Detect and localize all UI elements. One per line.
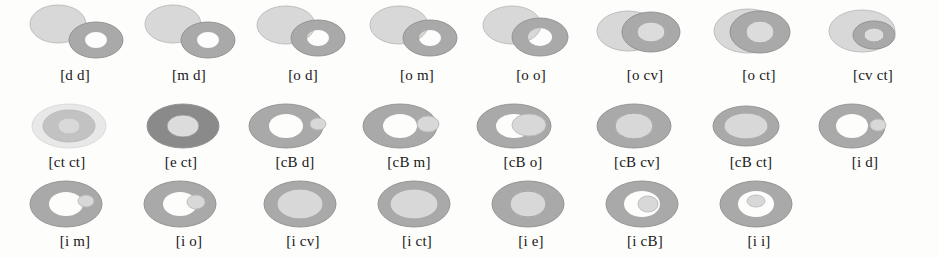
annulus-band xyxy=(818,0,928,66)
annulus-band xyxy=(20,179,130,233)
relation-label: [o o] xyxy=(516,68,546,83)
relation-cell: [o cv] xyxy=(588,0,702,100)
relation-diagram xyxy=(362,179,472,233)
relation-diagram xyxy=(818,0,928,66)
relation-label: [i cB] xyxy=(627,234,663,249)
inner-disc-shape xyxy=(310,118,326,130)
annulus-band xyxy=(476,0,586,66)
annulus-band xyxy=(20,0,130,66)
relation-label: [i d] xyxy=(852,155,878,170)
relation-diagram xyxy=(354,100,464,154)
relation-cell: [cB ct] xyxy=(694,100,808,179)
relation-cell: [ct ct] xyxy=(10,100,124,179)
annulus-band xyxy=(362,0,472,66)
inner-disc-shape xyxy=(512,114,546,136)
inner-disc-shape xyxy=(417,116,439,132)
relation-diagram xyxy=(240,100,350,154)
relation-label: [i m] xyxy=(60,234,91,249)
relation-label: [ct ct] xyxy=(49,155,86,170)
figure-row-3: [i m][i o][i cv][i ct][i e][i cB][i i] xyxy=(0,179,939,258)
relation-diagram xyxy=(810,100,920,154)
relation-cell: [i i] xyxy=(702,179,816,258)
relation-diagram xyxy=(248,179,358,233)
relation-diagram xyxy=(590,0,700,66)
relation-diagram xyxy=(704,179,814,233)
relation-cell: [o o] xyxy=(474,0,588,100)
relation-label: [i e] xyxy=(518,234,544,249)
annulus-band xyxy=(134,0,244,66)
relation-label: [cB o] xyxy=(503,155,542,170)
relation-diagram xyxy=(134,179,244,233)
annulus-band xyxy=(590,0,700,66)
relation-label: [i ct] xyxy=(402,234,432,249)
relation-label: [i i] xyxy=(747,234,770,249)
topological-relations-figure: [d d][m d][o d][o m][o o][o cv][o ct][cv… xyxy=(0,0,939,258)
relation-cell: [cv ct] xyxy=(816,0,930,100)
relation-label: [cB m] xyxy=(387,155,430,170)
annulus-band xyxy=(240,100,350,154)
inner-disc-shape xyxy=(187,195,205,209)
relation-diagram xyxy=(20,0,130,66)
relation-cell: [i cv] xyxy=(246,179,360,258)
relation-cell: [cB cv] xyxy=(580,100,694,179)
relation-label: [o d] xyxy=(288,68,318,83)
relation-cell: [o d] xyxy=(246,0,360,100)
relation-diagram xyxy=(362,0,472,66)
relation-label: [e ct] xyxy=(165,155,197,170)
relation-cell: [e ct] xyxy=(124,100,238,179)
relation-diagram xyxy=(696,100,806,154)
relation-label: [cB cv] xyxy=(614,155,660,170)
relation-diagram xyxy=(704,0,814,66)
inner-disc-shape xyxy=(747,195,765,207)
relation-diagram xyxy=(468,100,578,154)
relation-cell: [i d] xyxy=(808,100,922,179)
relation-cell: [i e] xyxy=(474,179,588,258)
relation-label: [d d] xyxy=(60,68,90,83)
relation-cell: [d d] xyxy=(18,0,132,100)
annulus-band xyxy=(126,100,236,154)
relation-cell: [cB m] xyxy=(352,100,466,179)
annulus-band xyxy=(704,0,814,66)
inner-disc-shape xyxy=(870,119,886,131)
relation-cell: [i o] xyxy=(132,179,246,258)
relation-cell: [i m] xyxy=(18,179,132,258)
relation-diagram xyxy=(12,100,122,154)
relation-label: [o ct] xyxy=(742,68,775,83)
relation-label: [i o] xyxy=(176,234,202,249)
relation-diagram xyxy=(134,0,244,66)
figure-row-1: [d d][m d][o d][o m][o o][o cv][o ct][cv… xyxy=(0,0,939,100)
relation-diagram xyxy=(248,0,358,66)
relation-diagram xyxy=(476,179,586,233)
relation-cell: [o m] xyxy=(360,0,474,100)
relation-cell: [cB o] xyxy=(466,100,580,179)
relation-label: [cB ct] xyxy=(730,155,773,170)
inner-disc-shape xyxy=(638,196,658,212)
inner-disc-shape xyxy=(78,195,94,207)
relation-diagram xyxy=(590,179,700,233)
relation-cell: [i ct] xyxy=(360,179,474,258)
relation-diagram xyxy=(582,100,692,154)
relation-cell: [m d] xyxy=(132,0,246,100)
relation-label: [cv ct] xyxy=(853,68,893,83)
relation-diagram xyxy=(476,0,586,66)
disc-shape xyxy=(32,104,106,148)
relation-label: [o cv] xyxy=(627,68,664,83)
relation-label: [o m] xyxy=(400,68,434,83)
relation-diagram xyxy=(126,100,236,154)
annulus-band xyxy=(248,0,358,66)
relation-label: [m d] xyxy=(172,68,206,83)
figure-row-2: [ct ct][e ct][cB d][cB m][cB o][cB cv][c… xyxy=(0,100,939,179)
relation-cell: [cB d] xyxy=(238,100,352,179)
relation-diagram xyxy=(20,179,130,233)
relation-cell: [o ct] xyxy=(702,0,816,100)
annulus-band xyxy=(354,100,464,154)
relation-label: [cB d] xyxy=(275,155,314,170)
annulus-band xyxy=(582,100,692,154)
relation-label: [i cv] xyxy=(286,234,319,249)
relation-cell: [i cB] xyxy=(588,179,702,258)
